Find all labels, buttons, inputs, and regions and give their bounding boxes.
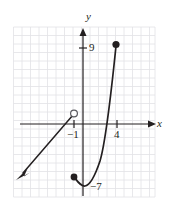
- x-tick-label-neg-1: −1: [67, 129, 79, 140]
- ray-arrow-icon: [16, 169, 30, 181]
- coordinate-plane-svg: [0, 0, 170, 207]
- y-tick-label-9: 9: [89, 42, 95, 53]
- graph-figure: y x 9 −1 4 −7: [0, 0, 170, 207]
- y-axis-label: y: [86, 11, 91, 22]
- right-curve-path: [74, 46, 116, 186]
- tick-marks: [74, 48, 117, 128]
- y-tick-label-neg-7: −7: [90, 181, 102, 192]
- y-axis-arrow-icon: [80, 28, 87, 36]
- closed-dot-upper-marker: [112, 41, 119, 48]
- open-circle-marker: [71, 110, 78, 117]
- x-tick-label-4: 4: [114, 129, 120, 140]
- grid-lines: [14, 27, 156, 197]
- closed-dot-lower-marker: [71, 174, 78, 181]
- x-axis-label: x: [157, 118, 162, 129]
